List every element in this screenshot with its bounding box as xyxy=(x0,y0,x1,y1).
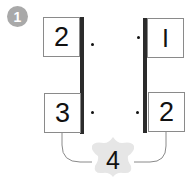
connector-diagram xyxy=(0,0,194,177)
result-value: 4 xyxy=(98,148,128,173)
left-connector-line xyxy=(62,133,92,162)
right-connector-line xyxy=(134,132,166,162)
